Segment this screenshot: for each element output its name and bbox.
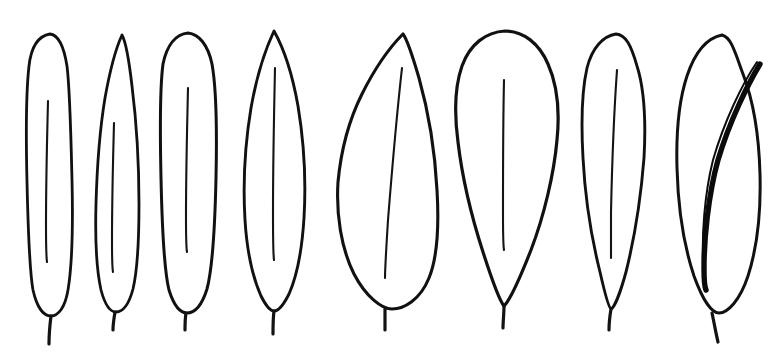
leaf-3-petiole bbox=[185, 313, 186, 330]
leaf-6-petiole bbox=[503, 306, 504, 328]
leaf-4-petiole bbox=[273, 311, 274, 334]
leaf-6-midrib bbox=[503, 80, 504, 250]
leaf-1-outline bbox=[26, 34, 72, 316]
leaf-illustration-canvas bbox=[0, 0, 777, 356]
leaf-3-oblong-rounded bbox=[160, 33, 216, 330]
leaf-figure-root bbox=[0, 0, 777, 356]
leaf-3-outline bbox=[160, 33, 216, 313]
